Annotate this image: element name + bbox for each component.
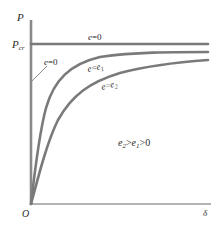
- x-axis-label: δ: [203, 208, 208, 218]
- label-e0-side: e=0: [44, 57, 58, 67]
- leader-line-e0: [31, 66, 47, 82]
- label-e1: e=e1: [86, 61, 104, 75]
- label-e0-top: e=0: [88, 32, 102, 42]
- pcr-label: Pcr: [11, 38, 25, 52]
- condition-label: e2>e1>0: [118, 137, 150, 150]
- load-deflection-diagram: P Pcr O δ e=0 e=0 e=e1 e=e2 e2>e1>0: [0, 0, 224, 229]
- y-axis-label: P: [16, 11, 24, 23]
- curve-e1: [31, 52, 208, 204]
- origin-label: O: [22, 208, 29, 219]
